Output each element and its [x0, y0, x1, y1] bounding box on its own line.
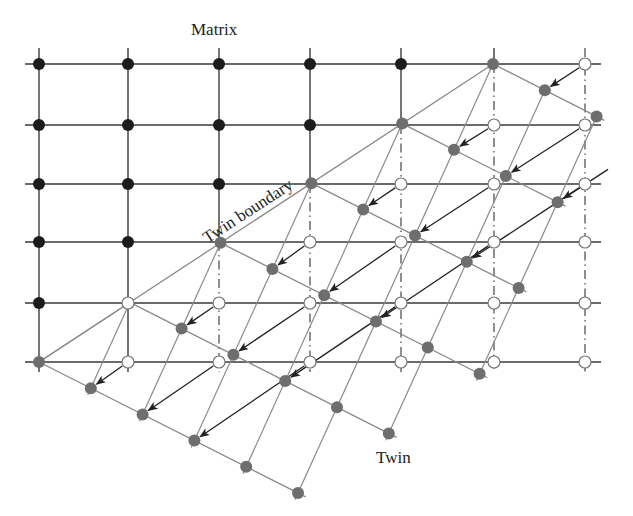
twin-atom	[591, 110, 603, 122]
twin-atom	[396, 118, 408, 130]
vacated-site	[488, 297, 500, 309]
displacement-arrow	[330, 246, 395, 291]
displacement-arrow	[460, 129, 488, 146]
vacated-site	[395, 297, 407, 309]
twin-atom	[448, 144, 460, 156]
twin-atom	[461, 256, 473, 268]
twin-atom	[474, 368, 486, 380]
twin-atom	[513, 282, 525, 294]
twin-atom	[137, 408, 149, 420]
matrix-atom	[33, 236, 45, 248]
vacated-site	[304, 356, 316, 368]
matrix-atom	[122, 58, 134, 70]
matrix-atom	[122, 119, 134, 131]
matrix-atom	[33, 58, 45, 70]
vacated-site	[579, 297, 591, 309]
twin-row-line	[39, 362, 306, 497]
matrix-label: Matrix	[191, 21, 237, 38]
twin-atom	[176, 323, 188, 335]
displacement-arrow	[551, 68, 579, 87]
displacement-arrow	[187, 307, 213, 325]
twin-row-line	[130, 302, 397, 437]
twin-atom	[279, 375, 291, 387]
matrix-grid-lines	[25, 48, 601, 372]
displacement-arrow	[369, 188, 395, 206]
vacated-site	[579, 58, 591, 70]
vacated-site	[395, 178, 407, 190]
twin-atom	[539, 84, 551, 96]
twin-atom	[240, 461, 252, 473]
matrix-atom	[304, 58, 316, 70]
twin-atom	[552, 196, 564, 208]
twinning-diagram: Matrix Twin boundary Twin	[0, 0, 633, 516]
vacated-site	[395, 236, 407, 248]
matrix-atom	[395, 58, 407, 70]
twin-atom	[422, 342, 434, 354]
twin-row-line	[221, 243, 488, 378]
twin-atom	[292, 487, 304, 499]
twin-label: Twin	[376, 449, 411, 466]
twin-atom	[266, 263, 278, 275]
twin-atom	[487, 58, 499, 70]
lattice-svg	[0, 0, 633, 516]
twin-atom	[357, 203, 369, 215]
vacated-site	[488, 356, 500, 368]
matrix-atom	[122, 178, 134, 190]
matrix-atom	[213, 58, 225, 70]
twin-atom	[331, 401, 343, 413]
twin-row-line	[402, 124, 565, 207]
vacated-site	[122, 356, 134, 368]
displacement-arrow	[239, 307, 304, 351]
vacated-site	[579, 356, 591, 368]
matrix-atom	[304, 119, 316, 131]
matrix-atom	[33, 297, 45, 309]
twin-atom	[383, 427, 395, 439]
vacated-site	[122, 297, 134, 309]
vacated-site	[304, 236, 316, 248]
vacated-site	[488, 178, 500, 190]
displacement-arrow	[97, 366, 123, 384]
matrix-atom	[33, 178, 45, 190]
twin-lattice-lines	[39, 64, 604, 500]
twin-atom	[33, 356, 45, 368]
vacated-site	[395, 356, 407, 368]
lattice-nodes	[33, 58, 603, 499]
vacated-site	[304, 297, 316, 309]
displacement-arrows	[97, 68, 608, 437]
vacated-site	[579, 236, 591, 248]
twin-atom	[500, 170, 512, 182]
vacated-site	[579, 178, 591, 190]
twin-atom	[409, 230, 421, 242]
matrix-atom	[213, 119, 225, 131]
vacated-site	[579, 119, 591, 131]
vacated-site	[213, 297, 225, 309]
matrix-atom	[213, 178, 225, 190]
matrix-atom	[122, 236, 134, 248]
displacement-arrow	[148, 366, 213, 410]
matrix-atom	[33, 119, 45, 131]
displacement-arrow	[512, 129, 579, 172]
twin-atom	[227, 349, 239, 361]
displacement-arrow	[421, 188, 488, 232]
vacated-site	[488, 119, 500, 131]
twin-atom	[318, 289, 330, 301]
twin-atom	[370, 315, 382, 327]
twin-atom	[305, 177, 317, 189]
vacated-site	[213, 356, 225, 368]
twin-atom	[85, 382, 97, 394]
displacement-arrow	[473, 188, 580, 258]
twin-atom	[188, 435, 200, 447]
vacated-site	[488, 236, 500, 248]
